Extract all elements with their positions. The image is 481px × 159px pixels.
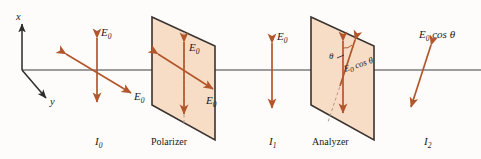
incident-field-label-diagonal: E0	[133, 90, 145, 105]
incident-beam-group: E0 E0 I0	[66, 26, 145, 150]
intensity-label-i1: I1	[268, 135, 276, 150]
intensity-label-i0: I0	[94, 135, 103, 150]
axis-label-x: x	[15, 11, 21, 22]
incident-diagonal-arrow	[66, 54, 131, 93]
polarizer-name-label: Polarizer	[151, 136, 188, 147]
intensity-label-i2: I2	[423, 135, 432, 150]
polarized-field-label: E0	[276, 30, 288, 45]
coordinate-axes: x y	[15, 11, 55, 107]
analyzer-name-label: Analyzer	[312, 136, 349, 147]
analyzer-angle-label: θ	[329, 51, 334, 61]
analyzer-group: θ E0 cos θ Analyzer	[311, 17, 376, 147]
polarizer-group: E0 E0 Polarizer	[151, 17, 217, 147]
output-beam-group: E0 cos θ I2	[411, 28, 456, 150]
output-tilted-arrow	[411, 45, 431, 107]
output-field-label: E0 cos θ	[418, 28, 456, 43]
polarized-beam-group: E0 I1	[268, 30, 288, 150]
polarization-figure: x y E0 E0 I0 E0 E0 Polarizer	[0, 0, 481, 159]
axis-label-y: y	[49, 96, 55, 107]
incident-field-label-top: E0	[100, 26, 112, 41]
